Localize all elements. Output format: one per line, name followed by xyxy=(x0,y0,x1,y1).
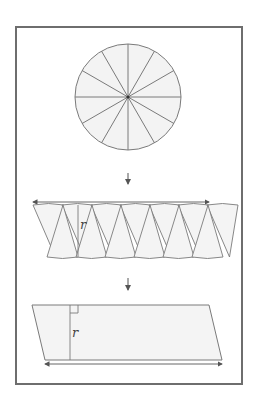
radius-label: r xyxy=(80,217,87,232)
center-point xyxy=(126,95,129,98)
sectored-circle xyxy=(75,44,181,150)
rearranged-sectors: r xyxy=(33,202,238,259)
height-label: r xyxy=(72,325,79,340)
parallelogram: r xyxy=(32,305,222,364)
diagram-canvas: r r xyxy=(0,0,256,402)
